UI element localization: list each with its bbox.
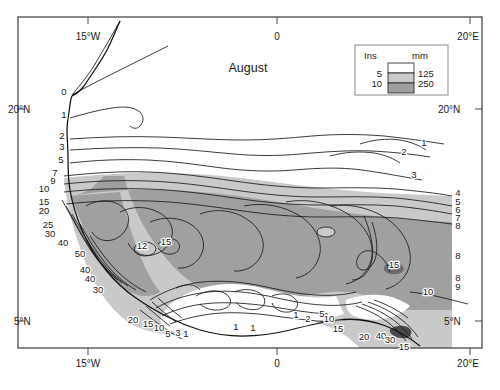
legend-header-mm: mm — [412, 50, 428, 61]
axis-label-bottom-15w: 15°W — [76, 358, 101, 369]
legend-header-ins: Ins — [364, 50, 377, 61]
map-title: August — [229, 61, 268, 75]
contour-label: 15 — [389, 259, 400, 270]
legend-ins-value-10: 10 — [371, 78, 382, 89]
contour-label: 15 — [143, 318, 154, 329]
axis-label-right-20n: 20°N — [438, 104, 460, 115]
legend-swatch-light-gray — [388, 73, 414, 83]
contour-label: 8 — [455, 250, 460, 261]
axis-label-top-0: 0 — [274, 31, 280, 42]
contour-label: 30 — [45, 228, 56, 239]
contour-label: 1 — [183, 328, 188, 339]
axis-label-left-20n: 20°N — [8, 104, 30, 115]
legend: Ins mm 5 10 125 250 — [355, 45, 448, 95]
rainfall-contour-map-figure: Ins mm 5 10 125 250 August 15°W 0 20°E 1… — [0, 0, 500, 390]
legend-swatch-dark-gray — [388, 83, 414, 93]
contour-label: 20 — [39, 205, 50, 216]
contour-label: 50 — [75, 248, 86, 259]
contour-label: 1 — [250, 322, 255, 333]
contour-label: 1 — [293, 309, 298, 320]
axis-label-top-15w: 15°W — [76, 31, 101, 42]
contour-label: 8 — [455, 220, 460, 231]
contour-label: 15 — [333, 323, 344, 334]
map-canvas: Ins mm 5 10 125 250 August 15°W 0 20°E 1… — [0, 0, 500, 390]
contour-label: 1 — [233, 321, 238, 332]
legend-swatch-white — [388, 63, 414, 73]
contour-label: 10 — [154, 322, 165, 333]
contour-label: 5 — [165, 328, 170, 339]
contour-label: 3 — [59, 141, 64, 152]
legend-mm-value-250: 250 — [418, 78, 434, 89]
contour-label: 1 — [421, 137, 426, 148]
contour-label: 10 — [39, 183, 50, 194]
axis-label-bottom-0: 0 — [274, 358, 280, 369]
contour-label: 40 — [58, 237, 69, 248]
contour-label: 20 — [359, 331, 370, 342]
axis-label-right-5n: 5°N — [444, 316, 461, 327]
contour-label: 12 — [137, 240, 148, 251]
contour-label: 10 — [423, 286, 434, 297]
contour-label: 2 — [59, 130, 64, 141]
contour-label: 9 — [50, 175, 55, 186]
contour-label: 2 — [305, 313, 310, 324]
contour-label: 20 — [128, 314, 139, 325]
contour-label: 9 — [455, 281, 460, 292]
contour-label: 3 — [411, 169, 416, 180]
axis-label-top-20e: 20°E — [457, 31, 479, 42]
axis-label-bottom-20e: 20°E — [457, 358, 479, 369]
contour-label: 0 — [61, 86, 66, 97]
contour-label: 30 — [385, 334, 396, 345]
contour-label: 1 — [61, 109, 66, 120]
contour-label: 40 — [85, 273, 96, 284]
axis-label-left-5n: 5°N — [14, 316, 31, 327]
contour-label: 5 — [58, 154, 63, 165]
contour-label: 15 — [161, 236, 172, 247]
contour-label: 30 — [93, 284, 104, 295]
contour-label: 15 — [399, 341, 410, 352]
contour-label: 2 — [401, 146, 406, 157]
contour-label: 3 — [175, 327, 180, 338]
